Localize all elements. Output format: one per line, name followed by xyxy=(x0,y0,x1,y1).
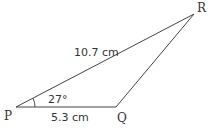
vertex-label-q: Q xyxy=(117,111,127,125)
triangle-pqr xyxy=(16,14,194,107)
side-qr xyxy=(116,14,194,107)
angle-label-p: 27° xyxy=(48,93,68,106)
side-pr xyxy=(16,14,194,107)
vertex-label-r: R xyxy=(197,1,207,15)
vertex-label-p: P xyxy=(4,109,12,123)
side-label-pq: 5.3 cm xyxy=(51,111,89,124)
angle-arc-p xyxy=(33,98,35,107)
triangle-diagram: P Q R 10.7 cm 5.3 cm 27° xyxy=(0,0,208,132)
side-label-pr: 10.7 cm xyxy=(74,46,119,59)
